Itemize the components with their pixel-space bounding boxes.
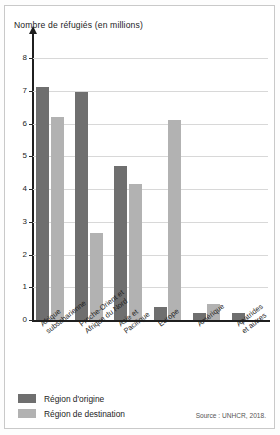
y-axis-tick-label: 3 [23,218,27,226]
source-note: Source : UNHCR, 2018. [196,412,266,419]
y-axis-tick-mark [29,320,33,321]
bar [129,184,142,320]
legend-swatch [18,409,36,418]
plot-area: 012345678 [33,52,268,320]
x-axis-labels: AfriquesubsaharienneProche-Orient etAfri… [33,322,270,388]
bars-layer [33,52,268,320]
y-axis-tick-label: 1 [23,283,27,291]
bar [75,92,88,320]
bar [51,117,64,320]
y-axis-tick-label: 2 [23,251,27,259]
legend-item: Région de destination [18,407,125,420]
y-axis-tick-label: 4 [23,185,27,193]
figure-container: Nombre de réfugiés (en millions) 0123456… [0,0,280,435]
y-axis-tick-label: 5 [23,152,27,160]
y-axis-tick-label: 7 [23,87,27,95]
legend-label: Région de destination [44,409,125,419]
legend-label: Région d'origine [44,394,104,404]
chart-legend: Région d'origineRégion de destination [18,392,125,422]
legend-item: Région d'origine [18,392,125,405]
bar [168,120,181,320]
y-axis-tick-label: 6 [23,120,27,128]
y-axis-tick-label: 0 [23,316,27,324]
legend-swatch [18,394,36,403]
bar [36,87,49,320]
y-axis-tick-label: 8 [23,54,27,62]
